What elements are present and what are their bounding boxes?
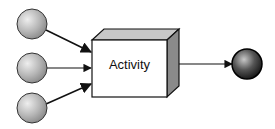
input-circle-3: [17, 93, 47, 123]
activity-box-top: [92, 29, 179, 40]
activity-label: Activity: [92, 57, 167, 72]
arrow-input-3: [46, 84, 91, 104]
arrow-input-1: [46, 30, 91, 52]
input-circle-1: [17, 9, 47, 39]
input-circle-2: [17, 53, 47, 83]
output-circle: [232, 49, 262, 79]
activity-box-side: [167, 29, 179, 97]
